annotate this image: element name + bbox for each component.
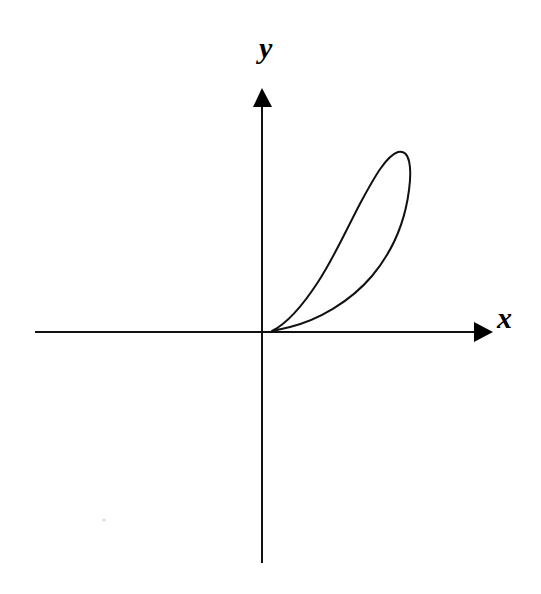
y-axis-label: y <box>256 31 273 64</box>
y-axis-arrowhead <box>253 88 272 107</box>
coordinate-diagram: x y <box>0 0 541 594</box>
scan-artifact <box>102 518 105 521</box>
x-axis-label: x <box>496 301 512 334</box>
loop-curve <box>272 152 410 331</box>
x-axis-arrowhead <box>474 322 493 342</box>
